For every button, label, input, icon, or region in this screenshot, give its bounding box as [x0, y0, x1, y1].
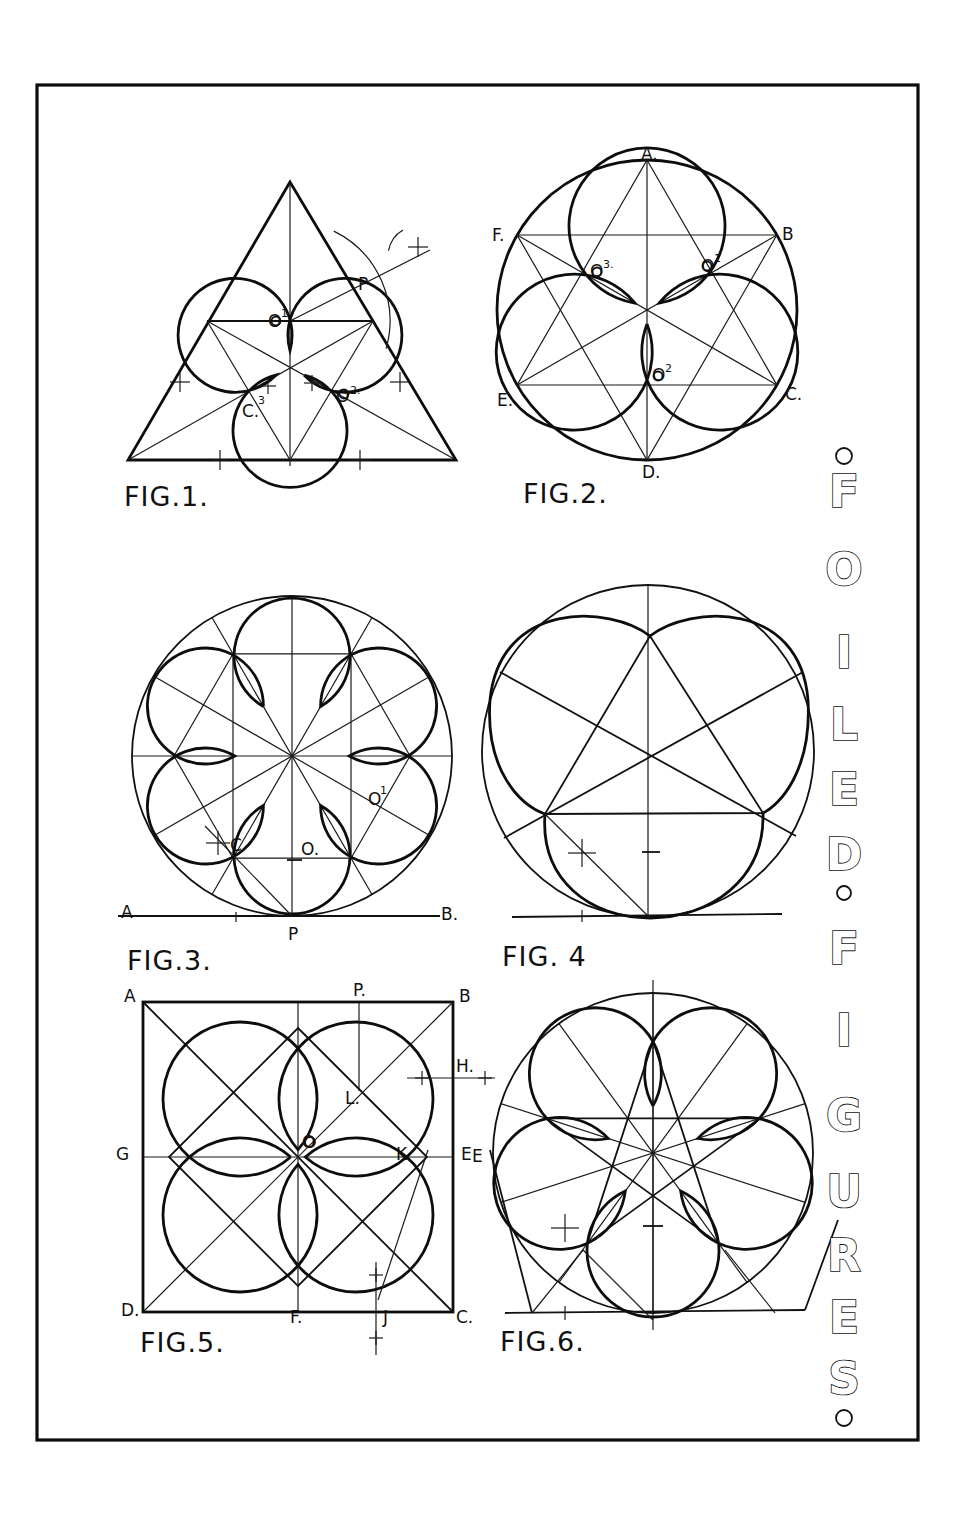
title-letter: F: [829, 923, 859, 974]
fig1-label-p: P: [358, 274, 368, 294]
fig2-caption: FIG.2.: [523, 478, 608, 509]
title-letter: E: [829, 1292, 859, 1343]
title-ornament-dot: [837, 886, 851, 900]
title-letter: I: [836, 627, 852, 678]
fig3-label-o: O.: [301, 839, 319, 859]
fig4-construction: [482, 585, 814, 922]
title-ornament-dot: [836, 1410, 852, 1426]
fig2-label-o1: O: [701, 256, 714, 276]
fig2-label-o1-sup: 1: [714, 252, 721, 265]
figure-4: FIG. 4: [482, 585, 814, 972]
tangent-line: [490, 1150, 532, 1313]
fig5-label-o: O: [302, 1132, 315, 1152]
figure-3: A B. P C O. O 1 FIG.3.: [118, 596, 458, 976]
fig5-label-b: B: [459, 986, 471, 1006]
fig3-label-o1-sup: 1: [380, 784, 387, 797]
fig3-label-a: A: [121, 902, 133, 922]
fig2-label-b: B: [782, 224, 794, 244]
fig2-label-a: A.: [641, 144, 658, 164]
fig3-caption: FIG.3.: [127, 945, 212, 976]
fig2-construction: [496, 148, 798, 460]
figure-6: E FIG.6.: [472, 980, 838, 1357]
fig5-label-a: A: [124, 986, 136, 1006]
fig5-label-k: K: [396, 1144, 408, 1164]
fig2-label-o2: O: [652, 365, 665, 385]
construction-line: [725, 1250, 775, 1313]
fig5-label-h: H.: [456, 1056, 474, 1076]
fig5-label-j: J: [382, 1307, 388, 1327]
fig2-label-d: D.: [642, 462, 661, 482]
inner-triangle: [545, 636, 763, 814]
title-letter: D: [826, 829, 863, 880]
fig6-construction: [490, 980, 838, 1330]
fig5-label-l: L.: [345, 1088, 360, 1108]
fig1-label-c3: C.: [242, 401, 259, 421]
construction-line: [532, 1250, 583, 1313]
star-line: [587, 1118, 759, 1243]
fig5-label-e: E: [461, 1144, 472, 1164]
fig2-label-o2-sup: 2: [665, 362, 672, 375]
construction-line: [205, 826, 292, 916]
fig2-label-o3: O: [590, 261, 603, 281]
fig6-label-e: E: [472, 1146, 483, 1166]
figure-2: A. B C. D. E. F. O 1 O 2 O 3. FIG.2.: [492, 144, 802, 509]
foil-lobe-right: [650, 616, 808, 813]
fig2-label-f: F.: [492, 225, 504, 245]
title-letter: G: [826, 1090, 862, 1141]
fig1-label-c3-sup: 3: [258, 394, 265, 407]
fig1-label-o1: O: [268, 311, 281, 331]
title-letter: R: [827, 1230, 861, 1281]
fig3-construction: [118, 596, 452, 922]
title-letter: I: [836, 1005, 852, 1056]
fig1-caption: FIG.1.: [124, 481, 209, 512]
title-letter: L: [830, 699, 858, 750]
fig5-label-p: P.: [353, 980, 366, 1000]
vertical-title: FOILEDFIGURES: [825, 448, 862, 1426]
fig5-label-d: D.: [121, 1300, 140, 1320]
fig3-label-c: C: [230, 835, 242, 855]
foil-lobe-bottom: [545, 813, 763, 918]
fig1-construction: [128, 182, 456, 487]
title-letter: O: [825, 544, 862, 595]
fig3-label-b: B.: [441, 904, 458, 924]
fig5-construction: [143, 1002, 495, 1355]
fig1-label-o2-sup: 2.: [350, 384, 361, 397]
star-line: [546, 1118, 718, 1243]
construction-arc: [389, 230, 404, 251]
fig2-label-c: C.: [785, 384, 802, 404]
fig4-caption: FIG. 4: [502, 941, 587, 972]
construction-line: [545, 814, 650, 918]
title-letter: F: [829, 466, 859, 517]
title-letter: S: [828, 1353, 860, 1404]
fig5-label-f: F.: [290, 1307, 302, 1327]
fig6-caption: FIG.6.: [500, 1326, 585, 1357]
fig1-label-o1-sup: 1: [281, 307, 288, 320]
title-letter: U: [826, 1166, 862, 1217]
fig5-label-g: G: [116, 1144, 129, 1164]
title-ornament-dot: [836, 448, 852, 464]
fig5-label-c: C.: [456, 1307, 473, 1327]
fig3-label-p: P: [288, 924, 298, 944]
figure-5: A B C. D. E F. G H. J K L. O P. FIG.5.: [116, 980, 495, 1358]
fig2-label-e: E.: [497, 390, 513, 410]
figure-1: O 1 O 2. C. 3 P FIG.1.: [124, 182, 456, 512]
fig5-caption: FIG.5.: [140, 1327, 225, 1358]
fig1-label-o2: O: [336, 386, 349, 406]
foil-lobe-left: [490, 616, 650, 814]
title-letter: E: [829, 764, 859, 815]
foiled-figures-plate: O 1 O 2. C. 3 P FIG.1. A. B C. D. E. F. …: [0, 0, 958, 1534]
fig2-label-o3-sup: 3.: [603, 258, 614, 271]
